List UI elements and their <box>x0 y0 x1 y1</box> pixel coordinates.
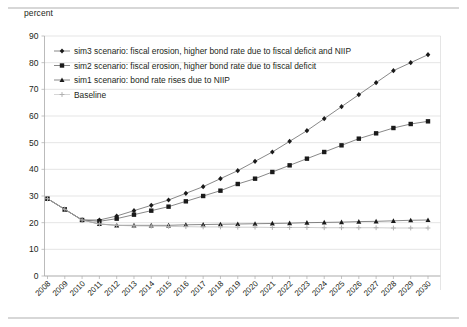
diamond-marker-icon <box>339 104 344 109</box>
plus-marker-icon <box>166 224 171 229</box>
square-marker-icon <box>391 126 395 130</box>
y-tick-label-80: 80 <box>29 58 39 68</box>
diamond-marker-icon <box>322 116 327 121</box>
diamond-marker-icon <box>201 184 206 189</box>
x-tick-label-2028: 2028 <box>379 279 398 298</box>
series-4 <box>45 196 430 230</box>
x-tick-label-2016: 2016 <box>172 279 191 298</box>
plus-marker-icon <box>132 223 137 228</box>
plus-marker-icon <box>60 92 65 97</box>
plus-marker-icon <box>391 226 396 231</box>
plus-marker-icon <box>287 225 292 230</box>
y-tick-label-10: 10 <box>29 244 39 254</box>
plus-marker-icon <box>408 226 413 231</box>
legend-entry-2: sim2 scenario: fiscal erosion, higher bo… <box>54 61 317 71</box>
y-tick-label-50: 50 <box>29 138 39 148</box>
square-marker-icon <box>132 212 136 216</box>
series-line <box>48 199 429 226</box>
square-marker-icon <box>253 176 257 180</box>
line-chart-svg: 0102030405060708090 20082009201020112012… <box>0 0 467 327</box>
y-tick-label-60: 60 <box>29 111 39 121</box>
y-tick-label-40: 40 <box>29 164 39 174</box>
chart-container: percent 0102030405060708090 200820092010… <box>0 0 467 327</box>
legend-entry-3: sim1 scenario: bond rate rises due to NI… <box>54 75 230 85</box>
x-axis: 2008200920102011201220132014201520162017… <box>33 276 440 298</box>
y-tick-label-20: 20 <box>29 218 39 228</box>
y-tick-label-30: 30 <box>29 191 39 201</box>
x-tick-label-2029: 2029 <box>397 279 416 298</box>
diamond-marker-icon <box>166 197 171 202</box>
square-marker-icon <box>339 143 343 147</box>
x-tick-label-2025: 2025 <box>327 279 346 298</box>
plus-marker-icon <box>322 225 327 230</box>
diamond-marker-icon <box>218 176 223 181</box>
square-marker-icon <box>426 119 430 123</box>
legend-label: sim1 scenario: bond rate rises due to NI… <box>74 75 230 85</box>
diamond-marker-icon <box>357 92 362 97</box>
diamond-marker-icon <box>270 149 275 154</box>
diamond-marker-icon <box>287 139 292 144</box>
square-marker-icon <box>149 208 153 212</box>
x-tick-label-2026: 2026 <box>345 279 364 298</box>
chart-legend: sim3 scenario: fiscal erosion, higher bo… <box>54 46 351 100</box>
diamond-marker-icon <box>426 52 431 57</box>
x-tick-label-2009: 2009 <box>51 279 70 298</box>
x-tick-label-2012: 2012 <box>103 279 122 298</box>
x-tick-label-2008: 2008 <box>33 279 52 298</box>
diamond-marker-icon <box>374 80 379 85</box>
x-tick-label-2023: 2023 <box>293 279 312 298</box>
diamond-marker-icon <box>408 60 413 65</box>
square-marker-icon <box>218 188 222 192</box>
diamond-marker-icon <box>60 48 65 53</box>
square-marker-icon <box>409 122 413 126</box>
y-axis: 0102030405060708090 <box>29 31 44 281</box>
legend-entry-1: sim3 scenario: fiscal erosion, higher bo… <box>54 46 351 56</box>
square-marker-icon <box>374 131 378 135</box>
diamond-marker-icon <box>253 159 258 164</box>
diamond-marker-icon <box>184 191 189 196</box>
square-marker-icon <box>184 199 188 203</box>
square-marker-icon <box>166 204 170 208</box>
diamond-marker-icon <box>235 168 240 173</box>
diamond-marker-icon <box>305 128 310 133</box>
x-tick-label-2010: 2010 <box>68 279 87 298</box>
legend-label: Baseline <box>74 90 106 100</box>
x-tick-label-2019: 2019 <box>224 279 243 298</box>
x-tick-label-2027: 2027 <box>362 279 381 298</box>
plus-marker-icon <box>426 226 431 231</box>
y-tick-label-90: 90 <box>29 31 39 41</box>
x-tick-label-2018: 2018 <box>206 279 225 298</box>
x-tick-label-2021: 2021 <box>258 279 277 298</box>
x-tick-label-2014: 2014 <box>137 279 156 298</box>
legend-entry-4: Baseline <box>54 90 106 100</box>
plus-marker-icon <box>270 225 275 230</box>
square-marker-icon <box>305 156 309 160</box>
gridlines <box>45 36 441 276</box>
diamond-marker-icon <box>391 68 396 73</box>
square-marker-icon <box>201 194 205 198</box>
square-marker-icon <box>60 63 64 67</box>
plus-marker-icon <box>339 225 344 230</box>
x-tick-label-2013: 2013 <box>120 279 139 298</box>
plus-marker-icon <box>305 225 310 230</box>
x-tick-label-2020: 2020 <box>241 279 260 298</box>
x-tick-label-2030: 2030 <box>414 279 433 298</box>
x-tick-label-2022: 2022 <box>276 279 295 298</box>
x-tick-label-2024: 2024 <box>310 279 329 298</box>
plus-marker-icon <box>356 225 361 230</box>
square-marker-icon <box>236 182 240 186</box>
square-marker-icon <box>114 216 118 220</box>
plus-marker-icon <box>374 225 379 230</box>
diamond-marker-icon <box>149 203 154 208</box>
square-marker-icon <box>357 136 361 140</box>
x-tick-label-2015: 2015 <box>155 279 174 298</box>
legend-label: sim2 scenario: fiscal erosion, higher bo… <box>74 61 317 71</box>
y-tick-label-0: 0 <box>34 271 39 281</box>
square-marker-icon <box>287 163 291 167</box>
square-marker-icon <box>322 150 326 154</box>
x-tick-label-2017: 2017 <box>189 279 208 298</box>
legend-label: sim3 scenario: fiscal erosion, higher bo… <box>74 46 351 56</box>
x-tick-label-2011: 2011 <box>86 279 105 298</box>
y-tick-label-70: 70 <box>29 84 39 94</box>
square-marker-icon <box>270 170 274 174</box>
